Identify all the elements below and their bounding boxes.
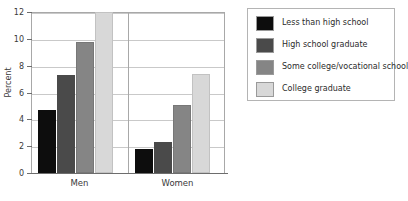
bar [76,42,94,173]
y-axis-tick [27,146,32,147]
legend-label: Less than high school [282,19,368,27]
legend-swatch-icon [256,82,274,97]
bar [173,105,191,173]
legend-label: College graduate [282,85,351,93]
y-axis-tick-label: 10 [0,39,24,40]
x-tick-label-women: Women [129,178,226,188]
cropped-title-remnant [120,0,280,3]
legend: Less than high school High school gradua… [247,8,395,101]
y-axis-tick-label: 12 [0,12,24,13]
legend-item: High school graduate [256,36,368,54]
legend-item: Some college/vocational school [256,58,408,76]
y-axis-tick [27,12,32,13]
x-axis-line [28,173,228,174]
legend-item: College graduate [256,80,351,98]
legend-label: High school graduate [282,41,368,49]
x-tick-label-men: Men [31,178,128,188]
y-axis-tick [27,39,32,40]
y-axis-tick [27,119,32,120]
y-axis-tick-label: 0 [0,173,24,174]
legend-swatch-icon [256,38,274,53]
y-axis-title: Percent [4,43,13,123]
group-separator [128,12,129,174]
legend-item: Less than high school [256,14,368,32]
y-axis-tick [27,66,32,67]
bar [57,75,75,173]
legend-swatch-icon [256,16,274,31]
bar [95,12,113,173]
bar [135,149,153,173]
bar [38,110,56,173]
y-axis-tick-label: 2 [0,146,24,147]
bar [192,74,210,173]
y-axis-tick [27,93,32,94]
bar [154,142,172,173]
legend-swatch-icon [256,60,274,75]
legend-label: Some college/vocational school [282,63,408,71]
y-axis-tick [27,173,32,174]
